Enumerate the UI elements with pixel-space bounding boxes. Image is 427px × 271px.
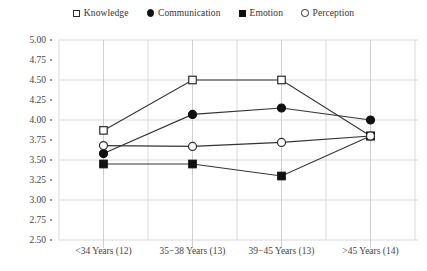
data-point-knowledge[interactable] (278, 76, 286, 84)
data-point-communication[interactable] (100, 150, 108, 158)
x-axis-tick-label: <34 Years (12) (75, 246, 131, 256)
y-axis-tick-label: 2.50 (12, 235, 46, 245)
chart-legend: KnowledgeCommunicationEmotionPerception (0, 8, 427, 18)
filled-square-icon (239, 10, 246, 17)
chart-plot-svg (59, 40, 415, 240)
legend-item-knowledge[interactable]: Knowledge (73, 8, 129, 18)
data-point-emotion[interactable] (278, 172, 286, 180)
y-axis-ticks (50, 40, 54, 240)
chart-container: KnowledgeCommunicationEmotionPerception … (0, 0, 427, 271)
data-point-perception[interactable] (278, 138, 286, 146)
data-point-perception[interactable] (367, 132, 375, 140)
data-point-communication[interactable] (189, 110, 197, 118)
y-axis-tick-label: 5.00 (12, 35, 46, 45)
data-point-communication[interactable] (278, 104, 286, 112)
x-axis-tick-label: 39−45 Years (13) (249, 246, 315, 256)
y-axis-labels: 5.004.754.504.254.003.753.503.253.002.75… (12, 40, 46, 240)
legend-item-label: Communication (158, 8, 221, 18)
legend-item-label: Emotion (250, 8, 283, 18)
open-circle-icon (301, 9, 309, 17)
y-axis-tick-mark (50, 199, 52, 201)
data-point-communication[interactable] (367, 116, 375, 124)
legend-item-label: Knowledge (84, 8, 129, 18)
open-square-icon (73, 10, 80, 17)
x-axis-tick-label: 35−38 Years (13) (160, 246, 226, 256)
legend-item-communication[interactable]: Communication (147, 8, 221, 18)
legend-item-label: Perception (313, 8, 355, 18)
data-point-knowledge[interactable] (189, 76, 197, 84)
y-axis-tick-mark (50, 239, 52, 241)
y-axis-tick-label: 3.25 (12, 175, 46, 185)
y-axis-tick-mark (50, 79, 52, 81)
y-axis-tick-mark (50, 159, 52, 161)
y-axis-tick-mark (50, 99, 52, 101)
y-axis-tick-label: 4.00 (12, 115, 46, 125)
legend-item-perception[interactable]: Perception (301, 8, 354, 18)
y-axis-tick-mark (50, 119, 52, 121)
y-axis-tick-mark (50, 219, 52, 221)
y-axis-tick-label: 4.25 (12, 95, 46, 105)
y-axis-tick-mark (50, 39, 52, 41)
filled-circle-icon (147, 9, 155, 17)
x-axis-tick-label: >45 Years (14) (342, 246, 398, 256)
y-axis-tick-label: 3.75 (12, 135, 46, 145)
data-point-emotion[interactable] (100, 160, 108, 168)
legend-item-emotion[interactable]: Emotion (239, 8, 283, 18)
y-axis-tick-mark (50, 59, 52, 61)
y-axis-tick-mark (50, 179, 52, 181)
y-axis-tick-label: 4.75 (12, 55, 46, 65)
y-axis-tick-label: 4.50 (12, 75, 46, 85)
data-point-perception[interactable] (100, 142, 108, 150)
data-point-knowledge[interactable] (100, 127, 108, 134)
y-axis-tick-mark (50, 139, 52, 141)
x-axis-labels: <34 Years (12)35−38 Years (13)39−45 Year… (59, 246, 415, 266)
y-axis-tick-label: 3.50 (12, 155, 46, 165)
y-axis-tick-label: 2.75 (12, 215, 46, 225)
y-axis-tick-label: 3.00 (12, 195, 46, 205)
plot-area (59, 40, 415, 240)
data-point-perception[interactable] (189, 142, 197, 150)
data-point-emotion[interactable] (189, 160, 197, 168)
